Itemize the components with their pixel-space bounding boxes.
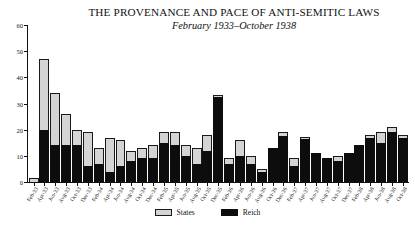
- bar-column: [82, 25, 93, 182]
- bar-column: [61, 25, 72, 182]
- bar-segment-reich: [116, 166, 126, 182]
- bar-column: [104, 25, 115, 182]
- x-tick-mark: [316, 182, 317, 186]
- bar-segment-reich: [39, 130, 49, 182]
- bar-segment-reich: [387, 132, 397, 182]
- bar-column: [256, 25, 267, 182]
- bar-segment-reich: [365, 138, 375, 182]
- reich-swatch: [221, 209, 238, 216]
- x-tick-mark: [283, 182, 284, 186]
- x-tick-mark: [120, 182, 121, 186]
- bar-segment-reich: [246, 164, 256, 182]
- x-tick-mark: [381, 182, 382, 186]
- x-tick-mark: [44, 182, 45, 186]
- bar-column: [332, 25, 343, 182]
- bar-column: [93, 25, 104, 182]
- bar-column: [50, 25, 61, 182]
- bar-segment-reich: [289, 166, 299, 182]
- bar-segment-states: [192, 148, 202, 164]
- bar-segment-reich: [50, 145, 60, 182]
- bar-segment-reich: [322, 158, 332, 182]
- x-tick-mark: [131, 182, 132, 186]
- bar-segment-states: [105, 138, 115, 172]
- x-tick-mark: [218, 182, 219, 186]
- chart-legend: StatesReich: [0, 208, 415, 217]
- y-tick-label: 40: [17, 74, 23, 81]
- bar-segment-reich: [137, 158, 147, 182]
- bar-segment-reich: [398, 138, 408, 182]
- bar-segment-reich: [311, 153, 321, 182]
- bar-segment-reich: [105, 172, 115, 182]
- legend-item: Reich: [221, 208, 261, 217]
- bar-column: [321, 25, 332, 182]
- chart-page: THE PROVENANCE AND PACE OF ANTI-SEMITIC …: [0, 0, 415, 230]
- bar-column: [213, 25, 224, 182]
- x-label-cell: Oct-38: [397, 186, 408, 208]
- x-tick-mark: [294, 182, 295, 186]
- bar-segment-reich: [268, 148, 278, 182]
- x-tick-mark: [240, 182, 241, 186]
- bar-segment-reich: [333, 161, 343, 182]
- bar-segment-states: [116, 140, 126, 166]
- legend-label: States: [177, 208, 195, 217]
- bar-segment-reich: [83, 166, 93, 182]
- bar-segment-states: [126, 151, 136, 161]
- bar-segment-states: [50, 93, 60, 145]
- legend-item: States: [155, 208, 195, 217]
- bar-segment-reich: [159, 143, 169, 182]
- bar-column: [397, 25, 408, 182]
- y-tick-label: 60: [17, 22, 23, 29]
- bar-segment-states: [181, 145, 191, 155]
- y-tick-label: 20: [17, 126, 23, 133]
- bar-column: [365, 25, 376, 182]
- bar-segment-states: [72, 130, 82, 146]
- x-tick-mark: [229, 182, 230, 186]
- bar-series-group: [28, 25, 408, 182]
- bar-segment-reich: [300, 139, 310, 182]
- bar-column: [245, 25, 256, 182]
- bar-column: [289, 25, 300, 182]
- bar-segment-reich: [126, 161, 136, 182]
- bar-segment-states: [148, 145, 158, 158]
- bar-segment-states: [202, 135, 212, 151]
- bar-column: [39, 25, 50, 182]
- bar-column: [180, 25, 191, 182]
- bar-column: [387, 25, 398, 182]
- bar-segment-reich: [344, 153, 354, 182]
- bar-column: [235, 25, 246, 182]
- bar-segment-states: [376, 132, 386, 142]
- bar-column: [115, 25, 126, 182]
- bar-segment-reich: [278, 136, 288, 182]
- bar-segment-reich: [354, 145, 364, 182]
- x-tick-mark: [55, 182, 56, 186]
- bar-segment-states: [289, 158, 299, 166]
- chart-title: THE PROVENANCE AND PACE OF ANTI-SEMITIC …: [60, 6, 408, 18]
- x-tick-mark: [327, 182, 328, 186]
- bar-column: [224, 25, 235, 182]
- bar-segment-states: [94, 148, 104, 164]
- bar-segment-reich: [94, 164, 104, 182]
- bar-segment-states: [39, 59, 49, 130]
- y-tick-label: 0: [20, 179, 23, 186]
- bar-segment-reich: [72, 145, 82, 182]
- bar-column: [28, 25, 39, 182]
- bar-segment-reich: [181, 156, 191, 182]
- bar-column: [137, 25, 148, 182]
- bar-column: [300, 25, 311, 182]
- x-tick-label: Oct-38: [395, 186, 408, 202]
- bar-segment-reich: [202, 151, 212, 182]
- bar-column: [191, 25, 202, 182]
- bar-segment-states: [246, 156, 256, 164]
- plot-area: 0102030405060: [27, 25, 409, 182]
- bar-segment-reich: [192, 164, 202, 182]
- bar-column: [354, 25, 365, 182]
- bar-segment-states: [159, 132, 169, 142]
- bar-column: [376, 25, 387, 182]
- bar-column: [169, 25, 180, 182]
- bar-column: [159, 25, 170, 182]
- legend-label: Reich: [243, 208, 261, 217]
- bar-column: [126, 25, 137, 182]
- bar-column: [343, 25, 354, 182]
- x-tick-mark: [370, 182, 371, 186]
- bar-column: [72, 25, 83, 182]
